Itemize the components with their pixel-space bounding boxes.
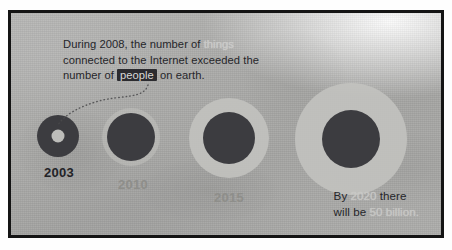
- caption-keyword-2020: 2020: [351, 189, 377, 202]
- headline-line3-pre: number of: [63, 69, 117, 81]
- headline: During 2008, the number of things connec…: [63, 37, 331, 84]
- caption-line-1: By 2020 there: [334, 188, 419, 204]
- headline-keyword-people: people: [117, 69, 157, 81]
- page-frame: 2003 2010 2015 During 2008, the number o…: [8, 10, 444, 238]
- caption-keyword-50-billion: 50 billion.: [369, 205, 419, 218]
- headline-keyword-things: things: [204, 38, 234, 50]
- year-label-2010: 2010: [118, 177, 148, 192]
- caption-line2-pre: will be: [334, 205, 370, 218]
- infographic-page: 2003 2010 2015 During 2008, the number o…: [0, 0, 452, 250]
- caption-2020: By 2020 there will be 50 billion.: [334, 188, 419, 219]
- bubble-core-2010: [107, 113, 155, 161]
- headline-line-3: number of people on earth.: [63, 68, 331, 84]
- headline-line-1: During 2008, the number of things: [63, 37, 331, 53]
- year-label-2003: 2003: [44, 165, 74, 180]
- year-label-2015: 2015: [214, 190, 244, 205]
- caption-line-2: will be 50 billion.: [334, 204, 419, 220]
- headline-line1-text: During 2008, the number of: [63, 38, 204, 50]
- headline-line-2: connected to the Internet exceeded the: [63, 53, 331, 69]
- caption-line1-pre: By: [334, 189, 351, 202]
- headline-line3-post: on earth.: [157, 69, 205, 81]
- bubble-core-2015: [203, 112, 255, 164]
- bubble-core-2020: [322, 110, 380, 168]
- bubble-hole-2003: [52, 130, 65, 143]
- caption-line1-post: there: [377, 189, 407, 202]
